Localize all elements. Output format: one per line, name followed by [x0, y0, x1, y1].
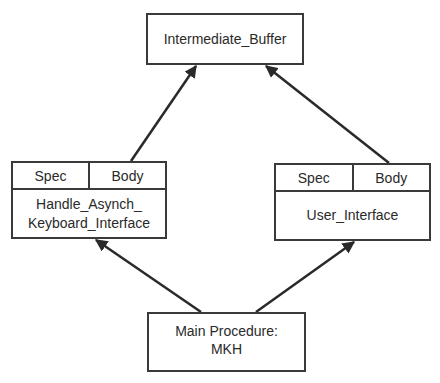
edge-handle-asynch-to-buffer	[131, 66, 196, 161]
spec-cell[interactable]: Spec	[276, 165, 352, 190]
node-label: Intermediate_Buffer	[148, 15, 302, 63]
body-cell[interactable]: Body	[352, 165, 430, 190]
package-header-row: Spec Body	[13, 163, 165, 190]
node-label: User_Interface	[276, 192, 429, 239]
node-intermediate-buffer[interactable]: Intermediate_Buffer	[146, 13, 304, 65]
node-user-interface[interactable]: Spec Body User_Interface	[274, 163, 431, 241]
node-label: Main Procedure: MKH	[149, 314, 304, 370]
package-header-row: Spec Body	[276, 165, 429, 192]
node-main-procedure[interactable]: Main Procedure: MKH	[147, 312, 306, 372]
edge-main-to-user-interface	[256, 242, 354, 312]
edge-user-interface-to-buffer	[266, 66, 389, 163]
dependency-diagram: Intermediate_Buffer Spec Body Handle_Asy…	[0, 0, 440, 383]
node-label: Handle_Asynch_ Keyboard_Interface	[13, 190, 165, 237]
spec-cell[interactable]: Spec	[13, 163, 88, 188]
node-handle-asynch-keyboard-interface[interactable]: Spec Body Handle_Asynch_ Keyboard_Interf…	[11, 161, 167, 239]
body-cell[interactable]: Body	[88, 163, 165, 188]
edge-main-to-handle-asynch	[96, 240, 201, 312]
